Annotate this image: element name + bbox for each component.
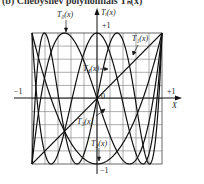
tick-origin: 0 xyxy=(101,93,105,101)
label-t3: T₃(x) xyxy=(77,118,93,126)
arrow-icon xyxy=(105,68,109,71)
arrow-icon xyxy=(98,157,101,161)
tick-y-plus1: +1 xyxy=(102,22,111,30)
label-x-axis: X xyxy=(172,102,177,110)
x-axis-arrow-icon xyxy=(175,96,182,101)
label-t4: T₄(x) xyxy=(83,65,99,73)
label-t2: T₂(x) xyxy=(91,140,107,148)
tick-x-plus1: +1 xyxy=(167,88,176,96)
arrow-icon xyxy=(133,51,137,55)
label-t1: T₁(x) xyxy=(132,35,148,43)
arrow-icon xyxy=(65,28,68,32)
tick-y-minus1: −1 xyxy=(100,167,109,175)
tick-x-minus1: −1 xyxy=(14,88,23,96)
y-axis-arrow-icon xyxy=(95,8,100,15)
label-t0: T₀(x) xyxy=(57,11,73,19)
label-y-axis: Tᵢ(x) xyxy=(101,9,116,17)
